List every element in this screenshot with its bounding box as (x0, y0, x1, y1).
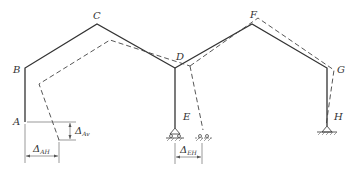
pin-support-H (317, 126, 337, 135)
label-node-C: C (93, 10, 101, 21)
label-delta-ah: ΔAH (32, 143, 51, 155)
dimension-delta-av (27, 122, 76, 140)
label-delta-av: ΔAv (74, 125, 90, 137)
roller-support-E-displaced (195, 135, 212, 142)
dimension-delta-ah (25, 124, 59, 163)
label-node-A: A (12, 116, 20, 127)
label-node-H: H (333, 111, 343, 122)
label-node-F: F (249, 9, 258, 20)
label-delta-eh: ΔEH (179, 144, 198, 156)
deflected-left (39, 40, 190, 140)
frame-right-gable (175, 24, 327, 126)
roller-support-E (166, 128, 184, 141)
frame-diagram: ΔAv ΔAH ΔEH A B C D E F G H (0, 0, 358, 170)
label-node-B: B (12, 64, 20, 75)
deflected-column-DE (190, 66, 203, 130)
label-node-E: E (182, 111, 191, 122)
label-node-D: D (175, 51, 184, 62)
label-node-G: G (337, 64, 345, 75)
deflected-right (190, 18, 334, 126)
